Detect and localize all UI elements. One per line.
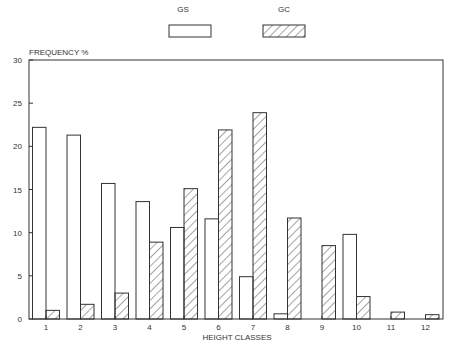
x-tick-label: 9 — [320, 323, 325, 332]
bar-gs — [171, 227, 185, 319]
legend-swatch — [169, 25, 211, 37]
y-axis-label: FREQUENCY % — [29, 48, 88, 57]
y-tick-label: 10 — [13, 229, 22, 238]
x-tick-label: 3 — [113, 323, 118, 332]
bar-gc — [426, 315, 440, 319]
y-tick-label: 30 — [13, 56, 22, 65]
legend-label: GC — [278, 5, 290, 14]
plot-frame — [29, 60, 443, 319]
bar-gs — [33, 127, 47, 319]
bar-gc — [322, 246, 336, 319]
bar-gc — [184, 189, 198, 319]
x-tick-label: 10 — [352, 323, 361, 332]
legend: GSGC — [169, 5, 305, 37]
x-axis-label: HEIGHT CLASSES — [202, 333, 271, 342]
legend-swatch — [263, 25, 305, 37]
bar-gc — [391, 312, 405, 319]
y-tick-label: 20 — [13, 142, 22, 151]
bar-gc — [150, 242, 164, 319]
bar-gs — [205, 219, 219, 319]
y-tick-label: 5 — [18, 272, 23, 281]
y-tick-label: 0 — [18, 315, 23, 324]
x-tick-label: 1 — [44, 323, 49, 332]
bar-gs — [102, 183, 116, 319]
bar-gc — [288, 218, 302, 319]
bar-gs — [343, 234, 357, 319]
bar-gs — [240, 277, 254, 319]
x-tick-label: 7 — [251, 323, 256, 332]
y-tick-label: 25 — [13, 99, 22, 108]
x-tick-label: 2 — [78, 323, 83, 332]
bar-gs — [136, 202, 150, 319]
y-axis: 051015202530 — [13, 56, 33, 324]
bar-gc — [219, 130, 233, 319]
bar-gc — [357, 297, 371, 319]
bar-gc — [81, 304, 95, 319]
legend-label: GS — [177, 5, 189, 14]
bar-gc — [46, 310, 60, 319]
x-tick-label: 5 — [182, 323, 187, 332]
x-tick-label: 6 — [216, 323, 221, 332]
x-tick-label: 8 — [285, 323, 290, 332]
bar-gc — [115, 293, 129, 319]
bars — [33, 113, 440, 319]
x-tick-label: 4 — [147, 323, 152, 332]
bar-chart: GSGC FREQUENCY % 051015202530 1234567891… — [0, 0, 454, 347]
bar-gs — [274, 314, 288, 319]
x-tick-label: 11 — [387, 323, 396, 332]
x-tick-label: 12 — [421, 323, 430, 332]
bar-gc — [253, 113, 267, 319]
y-tick-label: 15 — [13, 186, 22, 195]
bar-gs — [67, 135, 81, 319]
